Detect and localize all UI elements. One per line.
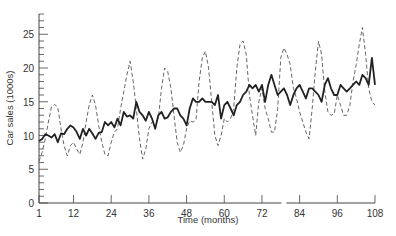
y-tick-label: 0 <box>28 198 34 209</box>
x-tick-label: 72 <box>256 208 268 219</box>
y-tick-label: 5 <box>28 164 34 175</box>
x-tick-label: 36 <box>143 208 155 219</box>
y-tick-label: 20 <box>23 63 35 74</box>
x-axis-title: Time (months) <box>178 214 239 225</box>
x-tick-label: 12 <box>68 208 80 219</box>
y-tick-label: 10 <box>23 131 35 142</box>
axes: 051015202511224364860728496108 <box>23 14 384 219</box>
series-deseasonalised-solid-line <box>39 58 375 142</box>
x-tick-label: 24 <box>106 208 118 219</box>
x-tick-label: 1 <box>36 208 42 219</box>
series-group <box>39 28 375 162</box>
series-actual-dashed-line <box>39 28 375 162</box>
y-axis-title: Car sales (1000s) <box>4 71 15 146</box>
x-tick-label: 84 <box>294 208 306 219</box>
line-chart: 051015202511224364860728496108 Time (mon… <box>0 0 396 236</box>
x-tick-label: 96 <box>332 208 344 219</box>
y-tick-label: 25 <box>23 29 35 40</box>
x-tick-label: 108 <box>367 208 384 219</box>
y-tick-label: 15 <box>23 97 35 108</box>
